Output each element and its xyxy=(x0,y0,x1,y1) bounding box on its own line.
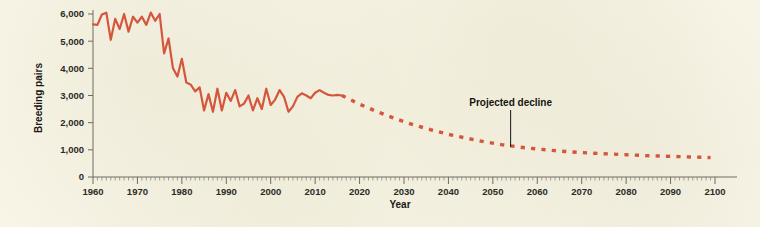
x-tick-label: 2070 xyxy=(571,186,592,197)
x-tick-label: 2010 xyxy=(305,186,326,197)
x-tick-label: 2030 xyxy=(393,186,414,197)
y-tick-label: 3,000 xyxy=(60,90,84,101)
breeding-pairs-line-chart: 01,0002,0003,0004,0005,0006,000196019701… xyxy=(0,0,760,227)
x-tick-label: 1970 xyxy=(127,186,148,197)
x-tick-label: 2050 xyxy=(482,186,503,197)
x-tick-label: 1990 xyxy=(216,186,237,197)
y-tick-label: 5,000 xyxy=(60,36,84,47)
x-tick-label: 2040 xyxy=(438,186,459,197)
x-tick-label: 1980 xyxy=(171,186,192,197)
y-tick-label: 0 xyxy=(79,171,84,182)
y-tick-label: 1,000 xyxy=(60,144,84,155)
x-tick-label: 2020 xyxy=(349,186,370,197)
y-axis-title: Breeding pairs xyxy=(33,63,44,133)
x-axis-title: Year xyxy=(389,199,410,210)
x-tick-label: 2090 xyxy=(660,186,681,197)
y-tick-label: 2,000 xyxy=(60,117,84,128)
annotation-label-projected-decline: Projected decline xyxy=(469,97,552,108)
x-tick-label: 2100 xyxy=(704,186,725,197)
figure-container: 01,0002,0003,0004,0005,0006,000196019701… xyxy=(0,0,760,227)
y-tick-label: 6,000 xyxy=(60,8,84,19)
observed-series-line xyxy=(93,13,342,112)
x-tick-label: 2080 xyxy=(616,186,637,197)
x-tick-label: 2000 xyxy=(260,186,281,197)
y-tick-label: 4,000 xyxy=(60,63,84,74)
x-tick-label: 1960 xyxy=(82,186,103,197)
x-tick-label: 2060 xyxy=(527,186,548,197)
